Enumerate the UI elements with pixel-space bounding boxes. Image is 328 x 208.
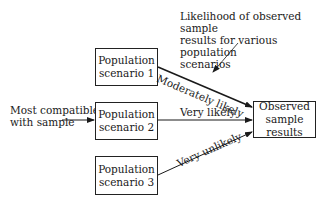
likelihood-annotation: Likelihood of observed sample results fo… [180,10,328,70]
edge-label-very-likely: Very likely [180,106,236,118]
label-line: with sample [10,116,99,128]
box-line: results [259,126,310,139]
box-line: Observed [259,100,310,113]
annotation-line: Likelihood of observed sample [180,10,328,34]
box-line: sample [259,113,310,126]
annotation-line: results for various population [180,34,328,58]
box-line: scenario 3 [98,176,155,189]
observed-results-box: Observed sample results [253,101,316,138]
box-line: scenario 1 [98,67,155,80]
box-line: Population [98,163,155,176]
scenario-3-box: Population scenario 3 [95,156,158,195]
box-line: Population [98,54,155,67]
most-compatible-label: Most compatible with sample [10,104,99,128]
annotation-line: scenarios [180,58,328,70]
scenario-2-box: Population scenario 2 [95,102,158,140]
label-line: Most compatible [10,104,99,116]
scenario-1-box: Population scenario 1 [95,48,158,86]
box-line: scenario 2 [98,121,155,134]
box-line: Population [98,108,155,121]
